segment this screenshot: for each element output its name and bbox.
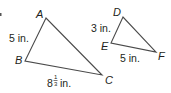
triangle-def-outline <box>111 17 156 52</box>
side-label-ab: 5 in. <box>9 32 29 44</box>
cropped-mark <box>0 13 2 16</box>
triangle-def: D E F 3 in. 5 in. <box>91 6 166 64</box>
vertex-label-c: C <box>105 74 113 86</box>
vertex-label-b: B <box>15 54 22 66</box>
side-bc-numerator: 1 <box>54 74 58 80</box>
side-bc-unit: in. <box>60 77 71 89</box>
vertex-label-a: A <box>35 8 43 20</box>
vertex-label-e: E <box>101 40 109 52</box>
similar-triangles-diagram: A B C 5 in. 8 1 3 in. D E F 3 in. 5 in. <box>0 0 171 93</box>
side-bc-whole: 8 <box>47 77 53 89</box>
side-bc-denominator: 3 <box>54 81 58 87</box>
side-label-ef: 5 in. <box>120 52 140 64</box>
side-label-de: 3 in. <box>91 22 111 34</box>
vertex-label-f: F <box>158 50 166 62</box>
vertex-label-d: D <box>113 6 121 18</box>
side-label-bc: 8 1 3 in. <box>47 74 71 89</box>
triangle-abc: A B C 5 in. 8 1 3 in. <box>9 8 113 89</box>
